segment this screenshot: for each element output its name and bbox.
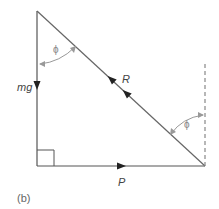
top-angle-label: ϕ (53, 45, 59, 55)
push-label: P (118, 177, 125, 188)
push-arrow-icon (117, 163, 126, 170)
reaction-vector-line (37, 11, 205, 166)
panel-label: (b) (17, 193, 30, 204)
right-angle-marker (37, 150, 54, 166)
weight-arrow-icon (34, 81, 41, 90)
right-angle-label: ϕ (184, 120, 190, 130)
right-angle-arrow-right-icon (198, 112, 204, 118)
weight-label: mg (17, 82, 32, 93)
top-angle-arrow-left-icon (39, 61, 45, 67)
top-angle-arrow-right-icon (70, 46, 76, 53)
reaction-label: R (122, 74, 130, 85)
force-triangle-diagram (0, 0, 219, 209)
